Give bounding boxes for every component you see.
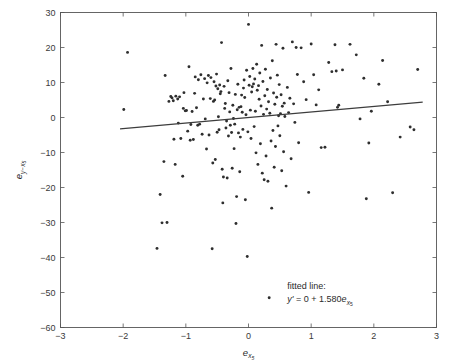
data-point: [286, 86, 289, 89]
data-point: [241, 128, 244, 131]
data-point: [241, 111, 244, 114]
data-point: [178, 95, 181, 98]
data-point: [334, 43, 337, 46]
data-point: [224, 127, 227, 130]
data-point: [271, 129, 274, 132]
y-tick-label: −40: [40, 253, 55, 263]
data-point: [207, 74, 210, 77]
data-point: [355, 53, 358, 56]
data-point: [258, 98, 261, 101]
data-point: [235, 222, 238, 225]
data-point: [172, 138, 175, 141]
data-point: [197, 78, 200, 81]
data-point: [223, 85, 226, 88]
data-point: [381, 59, 384, 62]
data-point: [337, 104, 340, 107]
data-point: [193, 92, 196, 95]
data-point: [261, 172, 264, 175]
data-point: [250, 91, 253, 94]
data-point: [278, 134, 281, 137]
data-point: [228, 110, 231, 113]
data-point: [258, 72, 261, 75]
data-point: [191, 110, 194, 113]
x-tick-label: −3: [55, 331, 65, 341]
data-point: [240, 94, 243, 97]
data-point: [251, 85, 254, 88]
data-point: [185, 109, 188, 112]
data-point: [280, 169, 283, 172]
data-point: [409, 126, 412, 129]
data-point: [302, 80, 305, 83]
data-point: [285, 185, 288, 188]
data-point: [223, 107, 226, 110]
data-point: [276, 74, 279, 77]
data-point: [275, 43, 278, 46]
data-point: [412, 128, 415, 131]
y-tick-label: 0: [50, 113, 55, 123]
data-point: [282, 150, 285, 153]
data-point: [246, 255, 249, 258]
data-point: [330, 70, 333, 73]
data-point: [362, 77, 365, 80]
data-point: [230, 131, 233, 134]
y-tick-label: −60: [40, 323, 55, 333]
data-point: [236, 108, 239, 111]
data-point: [221, 168, 224, 171]
y-tick-label: −50: [40, 288, 55, 298]
figure-container: −3−2−10123 3020100−10−20−30−40−50−60 fit…: [0, 0, 451, 363]
x-tick-label: 2: [371, 331, 376, 341]
data-point: [264, 68, 267, 71]
data-point: [229, 124, 232, 127]
x-tick-label: 3: [434, 331, 439, 341]
data-point: [288, 97, 291, 100]
data-point: [268, 112, 271, 115]
data-point: [291, 40, 294, 43]
data-point: [370, 110, 373, 113]
data-point: [174, 163, 177, 166]
x-tick-label: −2: [118, 331, 128, 341]
data-point: [365, 197, 368, 200]
data-point: [205, 148, 208, 151]
data-point: [293, 121, 296, 124]
data-point: [391, 191, 394, 194]
data-point: [377, 83, 380, 86]
x-tick-label: 0: [246, 331, 251, 341]
data-point: [386, 100, 389, 103]
data-point: [283, 115, 286, 118]
y-tick-label: −10: [40, 148, 55, 158]
data-point: [261, 80, 264, 83]
data-point: [399, 136, 402, 139]
data-point: [269, 77, 272, 80]
data-point: [226, 79, 229, 82]
data-point: [179, 137, 182, 140]
data-point: [317, 88, 320, 91]
data-point: [161, 221, 164, 224]
data-point: [189, 139, 192, 142]
data-point: [257, 84, 260, 87]
data-point: [260, 105, 263, 108]
data-point: [282, 47, 285, 50]
data-point: [290, 157, 293, 160]
data-point: [262, 113, 265, 116]
data-point: [300, 46, 303, 49]
data-point: [174, 95, 177, 98]
data-point: [320, 146, 323, 149]
data-point: [296, 73, 299, 76]
data-point: [228, 91, 231, 94]
data-point: [156, 247, 159, 250]
data-point: [315, 103, 318, 106]
y-tick-label: −30: [40, 218, 55, 228]
data-point: [236, 83, 239, 86]
data-point: [233, 123, 236, 126]
data-point: [268, 296, 271, 299]
data-point: [253, 78, 256, 81]
data-point: [162, 160, 165, 163]
data-point: [242, 87, 245, 90]
data-point: [231, 167, 234, 170]
data-point: [209, 97, 212, 100]
data-point: [227, 135, 230, 138]
data-point: [243, 79, 246, 82]
data-point: [245, 113, 248, 116]
data-point: [275, 96, 278, 99]
data-point: [219, 90, 222, 93]
